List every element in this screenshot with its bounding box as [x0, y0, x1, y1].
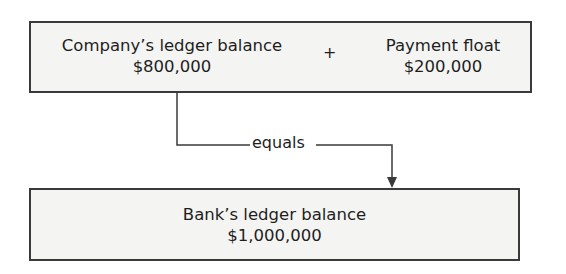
equals-label: equals [250, 133, 307, 153]
result-box: Bank’s ledger balance $1,000,000 [29, 188, 520, 261]
bank-ledger-label: Bank’s ledger balance [31, 204, 518, 225]
bank-ledger-value: $1,000,000 [31, 225, 518, 246]
arrowhead-icon [387, 177, 397, 188]
bank-ledger-balance: Bank’s ledger balance $1,000,000 [31, 204, 518, 246]
